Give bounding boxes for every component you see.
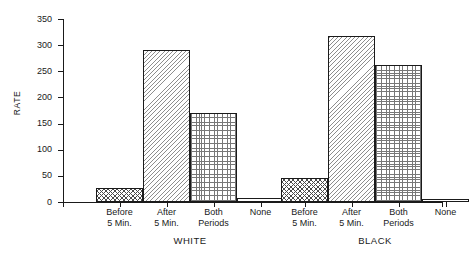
group-label: WHITE: [140, 235, 240, 246]
y-axis-tick-label: 300: [14, 41, 52, 50]
y-axis-tick-label: 100: [14, 145, 52, 154]
y-axis-tick-label: 50: [14, 171, 52, 180]
y-axis-tick-label: 350: [14, 15, 52, 24]
x-axis-tick-mark: [63, 202, 64, 207]
x-axis-tick-label-line1: None: [416, 207, 473, 218]
chart-title: [0, 0, 447, 1]
y-axis-tick-label: 150: [14, 119, 52, 128]
x-axis-tick-label: None: [416, 207, 473, 218]
y-axis-tick-label: 250: [14, 67, 52, 76]
bar: [281, 178, 328, 202]
y-axis-tick-label: 0: [14, 198, 52, 207]
bar: [190, 113, 237, 202]
plot-area: [63, 19, 442, 202]
y-axis-tick-label: 200: [14, 93, 52, 102]
x-axis-tick-label-line2: Periods: [184, 218, 244, 229]
group-label: BLACK: [325, 235, 425, 246]
bar: [143, 50, 190, 202]
bar: [375, 65, 422, 203]
bar: [96, 188, 143, 202]
x-axis-tick-label-line2: Periods: [369, 218, 429, 229]
bar: [328, 36, 375, 202]
